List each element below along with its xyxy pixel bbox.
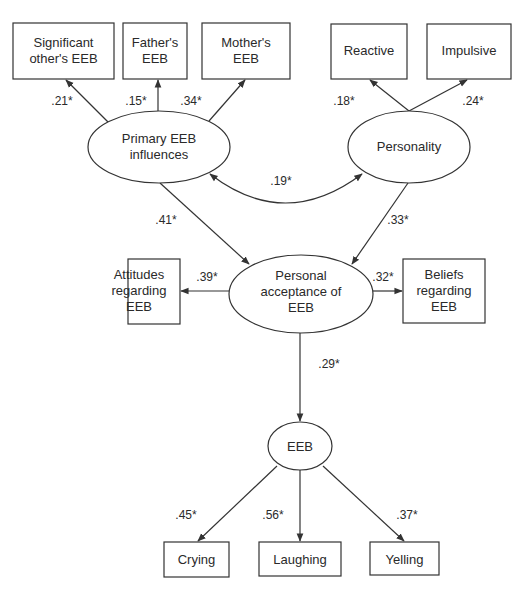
sem-diagram: Significant other's EEB Father's EEB Mot… (0, 0, 523, 594)
svg-text:Laughing: Laughing (273, 552, 327, 567)
svg-text:Attitudes: Attitudes (114, 267, 165, 282)
node-primary-eeb-influences: Primary EEB influences (88, 111, 230, 183)
node-mother: Mother's EEB (202, 23, 290, 79)
coef-acceptance-beliefs: .32* (372, 270, 394, 284)
coef-personality-acceptance: .33* (387, 213, 409, 227)
svg-text:Significant: Significant (34, 35, 94, 50)
svg-text:regarding: regarding (417, 283, 472, 298)
svg-text:Reactive: Reactive (344, 43, 395, 58)
svg-text:Impulsive: Impulsive (442, 43, 497, 58)
coef-eeb-laughing: .56* (262, 508, 284, 522)
svg-text:Personality: Personality (377, 139, 442, 154)
coef-eeb-crying: .45* (175, 508, 197, 522)
coef-primary-mother: .34* (180, 94, 202, 108)
svg-text:Father's: Father's (132, 35, 179, 50)
node-eeb: EEB (268, 422, 332, 470)
edge-eeb-yelling (323, 466, 404, 541)
svg-text:EEB: EEB (233, 51, 259, 66)
svg-text:regarding: regarding (112, 283, 167, 298)
coef-primary-significant: .21* (51, 94, 73, 108)
node-laughing: Laughing (259, 542, 341, 576)
svg-text:EEB: EEB (431, 299, 457, 314)
coef-personality-reactive: .18* (333, 94, 355, 108)
node-personality: Personality (348, 111, 470, 183)
svg-text:other's EEB: other's EEB (29, 51, 97, 66)
svg-text:Mother's: Mother's (221, 35, 271, 50)
svg-text:EEB: EEB (126, 299, 152, 314)
node-impulsive: Impulsive (427, 24, 511, 79)
svg-text:EEB: EEB (288, 300, 314, 315)
node-attitudes: Attitudes regarding EEB (112, 259, 180, 324)
svg-text:EEB: EEB (142, 51, 168, 66)
node-yelling: Yelling (370, 542, 439, 575)
coef-eeb-yelling: .37* (396, 508, 418, 522)
edge-eeb-crying (198, 466, 277, 541)
edge-personality-impulsive (409, 80, 467, 111)
svg-text:influences: influences (130, 147, 189, 162)
svg-text:acceptance of: acceptance of (261, 284, 342, 299)
node-father: Father's EEB (123, 23, 187, 79)
svg-text:Personal: Personal (275, 268, 326, 283)
node-significant-other: Significant other's EEB (13, 23, 114, 79)
coef-acceptance-eeb: .29* (318, 357, 340, 371)
coef-primary-personality: .19* (270, 174, 292, 188)
node-personal-acceptance: Personal acceptance of EEB (229, 255, 373, 333)
coef-personality-impulsive: .24* (462, 94, 484, 108)
svg-text:Beliefs: Beliefs (424, 267, 464, 282)
coef-acceptance-attitudes: .39* (196, 270, 218, 284)
coef-primary-father: .15* (125, 94, 147, 108)
coef-primary-acceptance: .41* (155, 213, 177, 227)
node-reactive: Reactive (331, 24, 407, 79)
node-beliefs: Beliefs regarding EEB (403, 259, 485, 323)
node-crying: Crying (164, 542, 229, 577)
edge-primary-mother (209, 80, 245, 121)
svg-text:EEB: EEB (287, 439, 313, 454)
svg-text:Primary EEB: Primary EEB (122, 131, 196, 146)
svg-text:Crying: Crying (178, 552, 216, 567)
svg-text:Yelling: Yelling (386, 552, 424, 567)
edge-personality-reactive (370, 80, 409, 111)
